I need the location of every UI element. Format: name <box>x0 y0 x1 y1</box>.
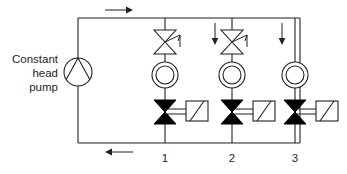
branch-2-down-flow-arrow-icon <box>212 23 219 45</box>
coil-inner-circle <box>156 66 174 84</box>
branch-2-control-valve <box>221 100 275 124</box>
pump-label-line-1: Constant <box>12 53 59 65</box>
pump-label-line-3: pump <box>29 81 58 93</box>
branch-1: 1 <box>152 18 208 164</box>
branch-3-down-flow-arrow-icon <box>279 23 286 45</box>
constant-head-pump <box>64 58 92 86</box>
control-valve-bowtie-icon <box>154 100 176 124</box>
branch-1-control-valve <box>154 100 208 124</box>
pump-label: Constant head pump <box>12 53 59 93</box>
branch-2-globe-valve <box>221 30 247 54</box>
branch-1-number-label: 1 <box>162 152 168 164</box>
branch-2-number-label: 2 <box>229 152 235 164</box>
piping-schematic-diagram: Constant head pump <box>0 0 347 174</box>
branch-3: 3 <box>282 18 338 164</box>
control-valve-bowtie-icon <box>284 100 306 124</box>
actuator-linkage-icon <box>295 109 316 114</box>
supply-flow-arrow-icon <box>105 7 133 14</box>
return-flow-arrow-icon <box>105 149 133 156</box>
branch-2-coil <box>219 62 245 88</box>
branch-3-control-valve <box>284 100 338 124</box>
schematic-canvas: Constant head pump <box>0 0 347 174</box>
actuator-linkage-icon <box>232 109 253 114</box>
branch-3-coil <box>282 62 308 88</box>
flow-arrows <box>105 7 285 156</box>
pump-body-circle <box>64 58 92 86</box>
pump-label-line-2: head <box>32 67 58 79</box>
branch-1-coil <box>152 62 178 88</box>
branch-2: 2 <box>219 18 275 164</box>
coil-inner-circle <box>223 66 241 84</box>
main-circuit-loop <box>78 18 300 143</box>
coil-inner-circle <box>286 66 304 84</box>
branch-3-number-label: 3 <box>292 152 298 164</box>
control-valve-bowtie-icon <box>221 100 243 124</box>
branch-1-globe-valve <box>154 30 180 54</box>
actuator-linkage-icon <box>165 109 186 114</box>
